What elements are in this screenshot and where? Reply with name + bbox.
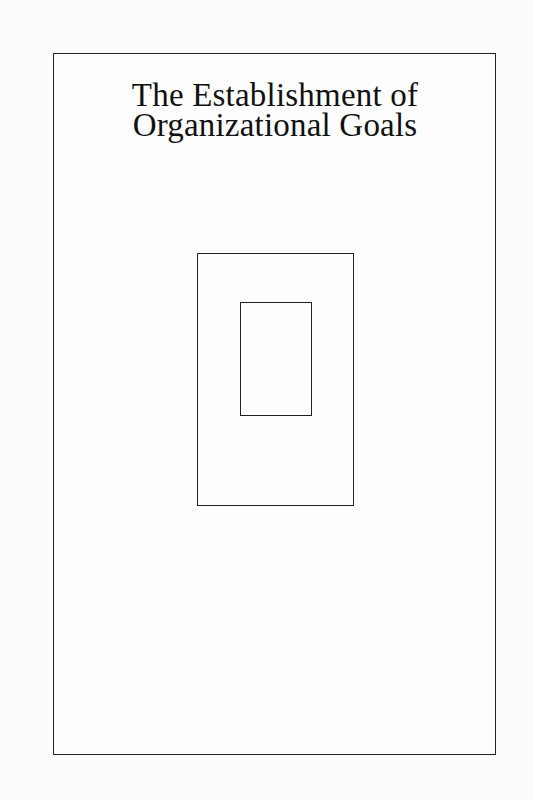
book-cover: The Establishment of Organizational Goal… <box>0 0 534 800</box>
cover-title: The Establishment of Organizational Goal… <box>0 80 534 140</box>
title-line-1: The Establishment of <box>0 80 534 110</box>
title-line-2: Organizational Goals <box>0 110 534 140</box>
inner-rectangle-graphic <box>240 302 312 416</box>
